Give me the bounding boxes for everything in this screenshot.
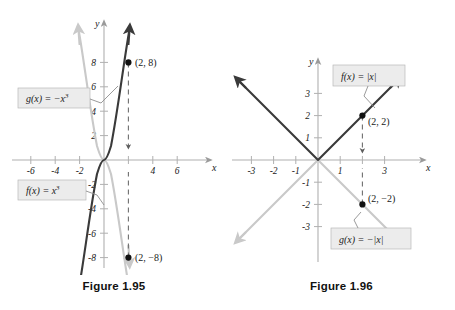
x-tick-label: -1: [292, 166, 300, 176]
point-2-2: [359, 113, 365, 119]
x-tick-label: 6: [175, 166, 180, 176]
y-tick-label: 2: [305, 111, 310, 121]
x-tick-label: 3: [381, 166, 387, 176]
y-tick-label: -2: [302, 200, 310, 210]
x-tick-label: -4: [51, 166, 59, 176]
y-tick-label: 8: [91, 58, 96, 68]
point-2-neg2: [359, 201, 365, 207]
callout-f-leader: [86, 191, 104, 205]
point-2-neg8-label: (2, −8): [135, 252, 162, 264]
callout-g-abs: g(x) = −|x|: [331, 212, 411, 249]
x-tick-label: -6: [27, 166, 35, 176]
y-tick-label: -3: [302, 222, 310, 232]
curve-g-arrow-left: [236, 232, 246, 242]
figure-1-96-caption: Figure 1.96: [228, 280, 455, 292]
x-tick-label: -2: [76, 166, 84, 176]
figure-1-96-plot: -3 -2 -1 1 3 3 2 1 -1 -2 -3 x y: [228, 0, 455, 275]
callout-g-exponent: 3: [64, 92, 69, 100]
callout-g-x: g(x) = −x3: [18, 86, 118, 108]
callout-f-label: f(x) = x: [26, 185, 57, 197]
callout-g-label: g(x) = −x: [26, 93, 66, 105]
callout-g-text: g(x) = −|x|: [339, 234, 384, 246]
y-axis-label: y: [308, 56, 314, 67]
callout-f-abs: f(x) = |x|: [333, 65, 405, 108]
x-axis-label: x: [211, 162, 217, 173]
x-tick-label: -2: [270, 166, 278, 176]
x-tick-label: 4: [150, 166, 155, 176]
y-tick-label: 1: [305, 133, 310, 143]
figure-1-95-plot: -6 -4 -2 4 6 8 6 4 2 -2 -4 -6 -8 x y: [0, 0, 228, 275]
x-tick-label: 1: [338, 166, 343, 176]
x-tick-label: -3: [247, 166, 255, 176]
x-axis-label: x: [425, 162, 431, 173]
point-2-8-label: (2, 8): [135, 57, 157, 69]
curve-g-arrow-top: [78, 26, 79, 45]
callout-g-leader: [354, 212, 361, 228]
callout-f-exponent: 3: [55, 184, 60, 192]
point-2-neg2-label: (2, −2): [368, 193, 395, 205]
y-tick-label: -8: [88, 253, 96, 263]
y-tick-label: -6: [88, 229, 96, 239]
point-2-neg8: [125, 255, 131, 261]
y-tick-label: 6: [91, 82, 96, 92]
figure-1-95-caption: Figure 1.95: [0, 280, 228, 292]
callout-g-text: g(x) = −x3: [26, 92, 69, 105]
curve-f-arrow-top: [128, 26, 129, 45]
point-2-2-label: (2, 2): [368, 116, 390, 128]
curve-f-arrow-left: [236, 78, 246, 88]
figure-1-96-panel: -3 -2 -1 1 3 3 2 1 -1 -2 -3 x y: [228, 0, 455, 310]
callout-f-text: f(x) = x3: [26, 184, 60, 197]
y-tick-label: 3: [304, 89, 310, 99]
figure-pair: -6 -4 -2 4 6 8 6 4 2 -2 -4 -6 -8 x y: [0, 0, 455, 310]
y-tick-label: -1: [302, 178, 310, 188]
figure-1-95-panel: -6 -4 -2 4 6 8 6 4 2 -2 -4 -6 -8 x y: [0, 0, 228, 310]
callout-f-text: f(x) = |x|: [341, 71, 377, 83]
point-2-8: [125, 59, 131, 65]
y-axis-label: y: [94, 18, 100, 29]
